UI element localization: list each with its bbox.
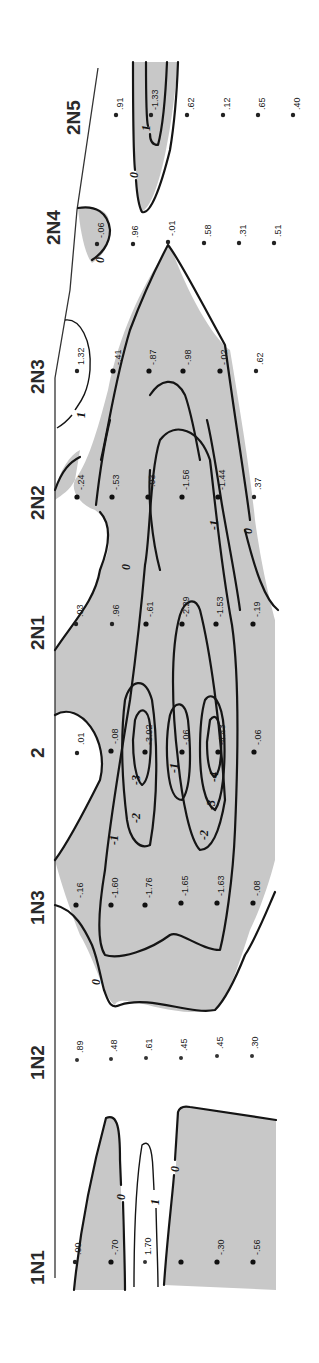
svg-text:-2.29: -2.29 <box>181 596 191 617</box>
svg-text:.45: .45 <box>215 1036 225 1049</box>
svg-text:0: 0 <box>127 172 141 178</box>
svg-text:-.01: -.01 <box>167 220 177 236</box>
svg-text:.00: .00 <box>73 1242 83 1255</box>
station-2n3: 2N3 <box>27 359 48 394</box>
svg-text:-.19: -.19 <box>252 601 262 617</box>
svg-text:-1: -1 <box>167 763 181 773</box>
svg-text:-3: -3 <box>129 775 143 785</box>
svg-text:1: 1 <box>148 1199 162 1205</box>
svg-text:.65: .65 <box>257 97 267 110</box>
svg-text:-.70: -.70 <box>110 1239 120 1255</box>
svg-text:1: 1 <box>74 412 88 418</box>
svg-text:.96: .96 <box>111 604 121 617</box>
svg-text:-.16: -.16 <box>75 882 85 898</box>
svg-text:-3: -3 <box>204 800 218 810</box>
station-2n1: 2N1 <box>27 615 48 650</box>
svg-text:1: 1 <box>139 125 153 131</box>
svg-text:-1.33: -1.33 <box>150 89 160 110</box>
svg-text:0: 0 <box>89 979 103 985</box>
svg-text:-.08: -.08 <box>110 728 120 744</box>
station-1n2-points: .89 .48 .61 .45 .45 .30 <box>75 1036 260 1062</box>
svg-text:-.41: -.41 <box>113 349 123 365</box>
svg-text:.30: .30 <box>250 1036 260 1049</box>
svg-text:0: 0 <box>168 1166 182 1172</box>
svg-text:-.08: -.08 <box>252 880 262 896</box>
svg-text:1.70: 1.70 <box>143 1237 153 1255</box>
svg-text:.12: .12 <box>222 97 232 110</box>
svg-text:-1: -1 <box>107 835 121 845</box>
svg-text:.48: .48 <box>109 1039 119 1052</box>
svg-text:.62: .62 <box>186 97 196 110</box>
station-1n2: 1N2 <box>27 1045 48 1080</box>
svg-text:.31: .31 <box>238 224 248 237</box>
svg-text:-4: -4 <box>207 772 221 782</box>
svg-text:.62: .62 <box>255 352 265 365</box>
station-2n5: 2N5 <box>63 100 84 135</box>
contour-1-1n1 <box>134 1143 158 1287</box>
contour-diagram: 0 1 0 1 0 0 -1 -1 -2 -3 -1 -4 -3 -2 0 0 … <box>0 0 319 1363</box>
station-1n3: 1N3 <box>27 890 48 925</box>
station-2n4-points: -.06 .96 -.01 .58 .31 .51 <box>95 220 283 246</box>
svg-text:-.06: -.06 <box>181 729 191 745</box>
station-2n2: 2N2 <box>27 485 48 520</box>
svg-text:-1.44: -1.44 <box>217 469 227 490</box>
svg-text:0: 0 <box>119 564 133 570</box>
svg-text:1.32: 1.32 <box>76 347 86 365</box>
svg-text:.91: .91 <box>115 97 125 110</box>
svg-text:.89: .89 <box>75 1040 85 1053</box>
svg-text:-.53: -.53 <box>111 474 121 490</box>
svg-text:.37: .37 <box>253 477 263 490</box>
svg-text:.01: .01 <box>76 732 86 745</box>
svg-text:-.02: -.02 <box>219 349 229 365</box>
svg-text:-1.63: -1.63 <box>216 875 226 896</box>
svg-text:.96: .96 <box>130 225 140 238</box>
svg-text:-.98: -.98 <box>183 349 193 365</box>
svg-text:-.61: -.61 <box>145 601 155 617</box>
svg-text:-.06: -.06 <box>96 222 106 238</box>
svg-text:.45: .45 <box>179 1038 189 1051</box>
svg-text:.51: .51 <box>273 224 283 237</box>
svg-text:-1.53: -1.53 <box>215 596 225 617</box>
svg-text:-1.65: -1.65 <box>180 875 190 896</box>
svg-text:-2: -2 <box>197 830 211 840</box>
svg-text:-.30: -.30 <box>216 1239 226 1255</box>
svg-text:0: 0 <box>114 1194 128 1200</box>
svg-text:.61: .61 <box>144 1038 154 1051</box>
svg-text:.58: .58 <box>203 224 213 237</box>
svg-text:-3.02: -3.02 <box>144 724 154 745</box>
svg-text:.40: .40 <box>292 97 302 110</box>
station-1n1: 1N1 <box>27 1250 48 1285</box>
svg-text:-1.60: -1.60 <box>110 877 120 898</box>
svg-text:-1.56: -1.56 <box>181 469 191 490</box>
station-2: 2 <box>27 747 48 758</box>
station-2n4: 2N4 <box>43 210 64 245</box>
svg-text:-.06: -.06 <box>253 729 263 745</box>
svg-text:.03: .03 <box>75 604 85 617</box>
svg-text:-1: -1 <box>207 520 221 530</box>
svg-text:-.56: -.56 <box>252 1239 262 1255</box>
svg-text:0: 0 <box>93 257 107 263</box>
shaded-region-main <box>55 245 275 1012</box>
svg-text:-.87: -.87 <box>148 349 158 365</box>
svg-text:-1.76: -1.76 <box>144 877 154 898</box>
svg-text:-.24: -.24 <box>76 474 86 490</box>
svg-text:-2: -2 <box>129 813 143 823</box>
svg-text:-4.43: -4.43 <box>217 724 227 745</box>
svg-text:-.03: -.03 <box>147 474 157 490</box>
svg-text:0: 0 <box>241 528 255 534</box>
